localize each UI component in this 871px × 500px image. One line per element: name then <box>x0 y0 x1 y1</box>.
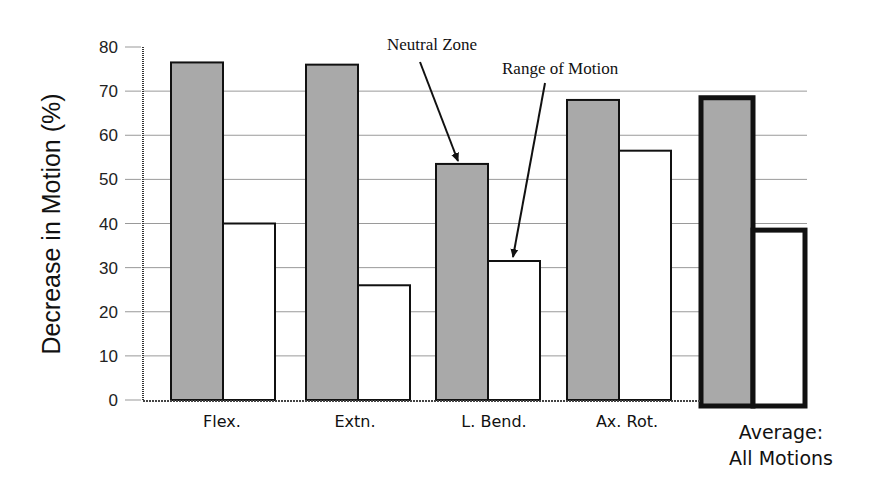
y-tick-label: 20 <box>99 303 118 322</box>
y-tick-label: 50 <box>99 170 118 189</box>
bar-neutral-zone <box>306 65 358 400</box>
y-tick-label: 10 <box>99 347 118 366</box>
bar-range-of-motion <box>753 230 805 406</box>
bar-neutral-zone <box>436 164 488 400</box>
bars <box>171 62 805 406</box>
arrow-range-of-motion <box>513 83 545 257</box>
bar-range-of-motion <box>358 285 410 400</box>
y-tick-label: 30 <box>99 259 118 278</box>
category-label-average-line1: Average: <box>739 421 823 443</box>
bar-range-of-motion <box>488 261 540 400</box>
bar-chart: 01020304050607080 Decrease in Motion (%)… <box>0 0 871 500</box>
annotation-neutral-zone: Neutral Zone <box>387 35 477 54</box>
y-tick-label: 40 <box>99 215 118 234</box>
y-tick-label: 80 <box>99 38 118 57</box>
y-axis-label: Decrease in Motion (%) <box>37 93 65 354</box>
y-axis-ticks: 01020304050607080 <box>99 38 141 410</box>
category-label-extn: Extn. <box>334 412 375 431</box>
annotation-range-of-motion: Range of Motion <box>502 59 619 78</box>
y-tick-label: 60 <box>99 126 118 145</box>
arrow-neutral-zone <box>420 62 458 161</box>
y-tick-label: 0 <box>109 391 118 410</box>
bar-neutral-zone <box>171 62 223 400</box>
category-label-lbend: L. Bend. <box>461 412 526 431</box>
category-label-axrot: Ax. Rot. <box>596 412 658 431</box>
bar-range-of-motion <box>619 151 671 400</box>
category-label-average-line2: All Motions <box>729 447 833 469</box>
category-label-flex: Flex. <box>203 412 241 431</box>
y-tick-label: 70 <box>99 82 118 101</box>
bar-range-of-motion <box>223 224 275 401</box>
bar-neutral-zone <box>567 100 619 400</box>
bar-neutral-zone <box>701 98 753 406</box>
